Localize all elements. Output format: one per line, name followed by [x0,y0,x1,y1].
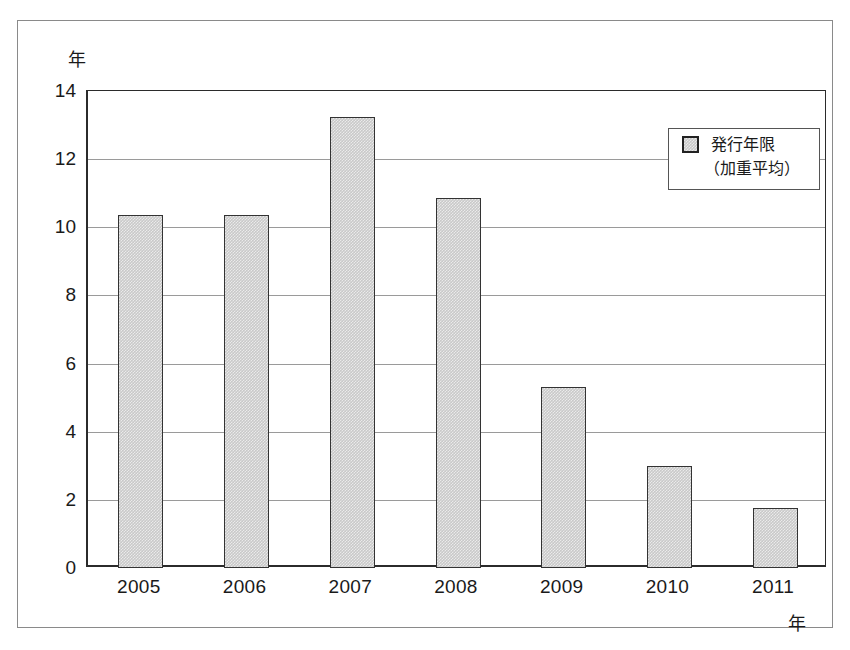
bar [224,215,269,568]
bar [541,387,586,568]
y-axis-tick-label: 0 [30,558,76,577]
bar [647,466,692,568]
y-axis-tick-label: 14 [30,81,76,100]
y-axis-tick-label: 10 [30,217,76,236]
legend-swatch-icon [682,136,699,153]
y-axis-tick-label: 4 [30,422,76,441]
legend-entry-label: 発行年限 [711,136,775,153]
chart-figure: 年 年 14121086420 200520062007200820092010… [0,0,850,650]
legend-entry-sublabel: （加重平均） [669,160,819,177]
bar [118,215,163,568]
bar [330,117,375,568]
x-axis-tick-label: 2006 [192,577,298,597]
x-axis-tick-label: 2007 [297,577,403,597]
x-axis-tick-label: 2009 [509,577,615,597]
bar [753,508,798,568]
y-axis-tick-label: 12 [30,149,76,168]
bar [436,198,481,568]
legend-entry: 発行年限 [669,136,819,153]
x-axis-tick-label: 2008 [403,577,509,597]
x-axis-tick-label: 2011 [720,577,826,597]
figure-frame: 年 年 14121086420 200520062007200820092010… [17,20,833,628]
x-axis-tick-label: 2005 [86,577,192,597]
y-axis-tick-label: 2 [30,490,76,509]
chart-legend: 発行年限 （加重平均） [668,128,820,190]
y-axis-tick-label: 8 [30,285,76,304]
x-axis-tick-label: 2010 [615,577,721,597]
y-axis-unit-label: 年 [68,51,86,69]
y-axis-tick-label: 6 [30,354,76,373]
x-axis-unit-label: 年 [788,615,806,633]
